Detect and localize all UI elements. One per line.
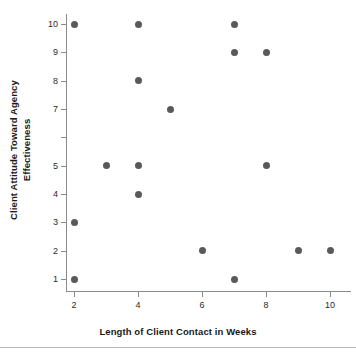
y-axis-tick-label: 1 <box>18 274 58 284</box>
x-axis-tick-label: 6 <box>187 300 217 310</box>
y-axis-tick <box>61 52 66 53</box>
data-point <box>263 49 270 56</box>
y-axis-tick <box>61 251 66 252</box>
y-axis-tick-label: 4 <box>18 189 58 199</box>
x-axis-title: Length of Client Contact in Weeks <box>0 326 356 337</box>
data-point <box>135 162 142 169</box>
y-axis-tick-label: 5 <box>18 161 58 171</box>
x-axis-tick-label: 4 <box>123 300 153 310</box>
y-axis-tick-label: 10 <box>18 19 58 29</box>
data-point <box>231 49 238 56</box>
x-axis-tick-label: 8 <box>251 300 281 310</box>
y-axis-tick-label: 3 <box>18 217 58 227</box>
bottom-divider <box>0 347 356 348</box>
x-axis-tick <box>74 292 75 297</box>
y-axis-tick <box>61 24 66 25</box>
data-point <box>167 106 174 113</box>
y-axis-line <box>66 14 67 291</box>
data-point <box>231 276 238 283</box>
x-axis-tick <box>330 292 331 297</box>
y-axis-tick-label: 8 <box>18 76 58 86</box>
x-axis-tick <box>266 292 267 297</box>
y-axis-tick <box>61 137 66 138</box>
y-axis-tick <box>61 194 66 195</box>
data-point <box>71 21 78 28</box>
y-axis-tick-label: 7 <box>18 104 58 114</box>
x-axis-line <box>66 291 351 292</box>
y-axis-tick <box>61 109 66 110</box>
data-point <box>135 191 142 198</box>
scatter-plot-figure: Client Attitude Toward Agency Effectiven… <box>0 0 356 354</box>
x-axis-tick <box>138 292 139 297</box>
y-axis-tick <box>61 279 66 280</box>
data-point <box>103 162 110 169</box>
y-axis-tick <box>61 81 66 82</box>
data-point <box>327 247 334 254</box>
data-point <box>199 247 206 254</box>
data-point <box>295 247 302 254</box>
data-point <box>71 219 78 226</box>
x-axis-tick-label: 2 <box>59 300 89 310</box>
data-point <box>263 162 270 169</box>
y-axis-tick-label: 2 <box>18 246 58 256</box>
data-point <box>135 21 142 28</box>
y-axis-tick <box>61 222 66 223</box>
y-axis-tick <box>61 166 66 167</box>
y-axis-tick-label: 9 <box>18 47 58 57</box>
data-point <box>135 77 142 84</box>
data-point <box>71 276 78 283</box>
data-point <box>231 21 238 28</box>
x-axis-tick-label: 10 <box>315 300 345 310</box>
x-axis-tick <box>202 292 203 297</box>
